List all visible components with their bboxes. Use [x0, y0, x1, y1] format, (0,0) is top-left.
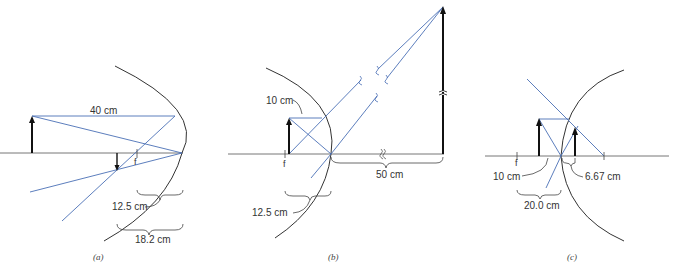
leader-focal-b — [293, 200, 310, 213]
rays-a — [30, 116, 182, 221]
leader-image-c — [571, 166, 583, 177]
caption-a: (a) — [93, 252, 104, 262]
panel-a-diagram — [0, 66, 187, 241]
object-arrow-a — [29, 116, 35, 153]
label-focal-length-b: 12.5 cm — [252, 208, 288, 218]
caption-b: (b) — [328, 252, 339, 262]
label-focal-mark-b: f — [283, 160, 286, 169]
rays-b — [289, 7, 443, 178]
brace-focal-b — [285, 191, 331, 200]
label-focal-length-c: 20.0 cm — [524, 201, 560, 211]
panel-b-diagram — [228, 6, 447, 238]
label-image-distance-a: 18.2 cm — [135, 235, 171, 245]
ray-break-marks-b — [359, 66, 388, 102]
leader-object-b — [293, 100, 302, 114]
label-focal-mark-c: f — [515, 159, 518, 168]
brace-focal-c — [517, 190, 561, 199]
label-object-distance-a: 40 cm — [90, 106, 117, 116]
label-focal-length-a: 12.5 cm — [112, 202, 148, 212]
label-image-distance-c: 6.67 cm — [585, 172, 621, 182]
brace-image-b — [331, 157, 443, 168]
caption-c: (c) — [567, 252, 577, 262]
label-image-distance-b: 50 cm — [376, 170, 403, 180]
object-arrow-b — [286, 118, 292, 154]
brace-image-c — [562, 158, 575, 166]
object-arrow-c — [536, 118, 542, 156]
image-arrow-c — [572, 127, 578, 156]
label-focal-mark-a: f — [134, 158, 137, 167]
image-arrow-b — [439, 6, 447, 154]
label-object-distance-b: 10 cm — [266, 96, 293, 106]
label-object-distance-c: 10 cm — [493, 172, 520, 182]
panel-c-diagram — [485, 70, 669, 241]
ray-diagram-figure — [0, 0, 674, 267]
leader-object-c — [522, 158, 548, 176]
